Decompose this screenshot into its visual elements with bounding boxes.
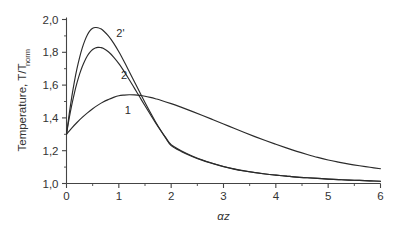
y-tick-label: 1,8 (43, 46, 59, 58)
chart-figure: 0123456 1,01,21,41,61,82,0 122' Temperat… (0, 0, 399, 227)
curve-label-2-prime: 2' (116, 27, 124, 39)
chart-background (0, 0, 399, 227)
x-axis-title: αz (217, 210, 230, 222)
x-tick-label: 2 (168, 190, 174, 202)
temperature-vs-alpha-z-chart: 0123456 1,01,21,41,61,82,0 122' Temperat… (0, 0, 399, 227)
x-tick-label: 0 (63, 190, 69, 202)
x-tick-label: 4 (273, 190, 280, 202)
x-tick-label: 6 (377, 190, 383, 202)
y-axis-title-main: Temperature, T/T (16, 64, 28, 152)
curve-label-2: 2 (121, 69, 127, 81)
x-tick-label: 1 (116, 190, 122, 202)
y-axis-title-subscript: norm (23, 49, 32, 66)
curve-label-1: 1 (125, 104, 131, 116)
x-tick-label: 5 (325, 190, 331, 202)
y-tick-label: 1,4 (43, 112, 60, 124)
y-tick-label: 1,2 (43, 145, 59, 157)
y-tick-label: 1,0 (43, 178, 59, 190)
y-tick-label: 1,6 (43, 79, 59, 91)
y-tick-label: 2,0 (43, 14, 59, 26)
x-tick-label: 3 (220, 190, 226, 202)
